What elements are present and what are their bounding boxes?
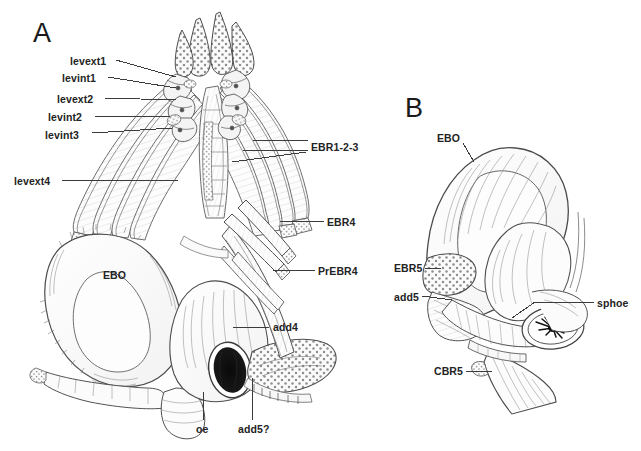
label-ebo-a: EBO [103,270,126,281]
label-prebr4: PrEBR4 [318,266,358,277]
label-sphoe: sphoe [597,298,628,309]
anatomical-figure: A B levext1 levint1 levext2 [0,0,641,451]
label-ebr1-2-3: EBR1-2-3 [311,142,358,153]
panel-letter-a: A [33,20,51,47]
label-add5: add5 [394,292,419,303]
figure-artwork [0,0,641,451]
label-ebo-b: EBO [437,133,460,144]
label-levint2: levint2 [48,112,82,123]
label-cbr5: CBR5 [434,366,463,377]
label-levext2: levext2 [57,94,93,105]
label-oe: oe [196,424,208,435]
label-levext1: levext1 [70,56,106,67]
label-ebr5: EBR5 [394,263,422,274]
label-ebr4: EBR4 [327,217,355,228]
label-levint3: levint3 [45,130,79,141]
label-levext4: levext4 [14,176,50,187]
label-add4: add4 [273,322,298,333]
panel-letter-b: B [405,95,423,122]
label-add5q: add5? [238,424,269,435]
label-levint1: levint1 [62,73,96,84]
